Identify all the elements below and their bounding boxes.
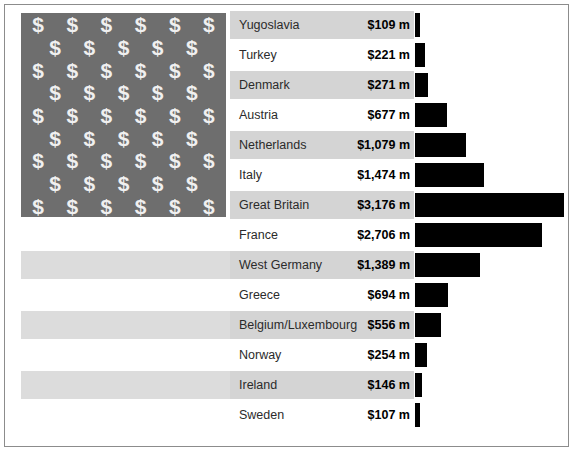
country-label: Italy <box>239 168 262 182</box>
value-bar <box>415 193 564 217</box>
country-label: Ireland <box>239 378 277 392</box>
country-label: Yugoslavia <box>239 18 299 32</box>
chart-row: Ireland$146 m <box>0 371 574 401</box>
value-bar <box>415 403 420 427</box>
chart-row: Yugoslavia$109 m <box>0 11 574 41</box>
country-label: Great Britain <box>239 198 309 212</box>
value-bar <box>415 133 466 157</box>
chart-row: Sweden$107 m <box>0 401 574 431</box>
chart-row: Italy$1,474 m <box>0 161 574 191</box>
value-label: $694 m <box>300 288 410 302</box>
country-label: Denmark <box>239 78 290 92</box>
value-label: $1,389 m <box>300 258 410 272</box>
chart-row: Turkey$221 m <box>0 41 574 71</box>
value-label: $146 m <box>300 378 410 392</box>
chart-row: Netherlands$1,079 m <box>0 131 574 161</box>
value-label: $556 m <box>300 318 410 332</box>
country-label: Sweden <box>239 408 284 422</box>
country-label: Turkey <box>239 48 277 62</box>
value-bar <box>415 43 425 67</box>
value-bar <box>415 373 422 397</box>
value-bar <box>415 253 480 277</box>
value-label: $221 m <box>300 48 410 62</box>
chart-row: Norway$254 m <box>0 341 574 371</box>
chart-row: Great Britain$3,176 m <box>0 191 574 221</box>
value-label: $2,706 m <box>300 228 410 242</box>
value-bar <box>415 13 420 37</box>
chart-row: Greece$694 m <box>0 281 574 311</box>
value-label: $1,474 m <box>300 168 410 182</box>
chart-row: West Germany$1,389 m <box>0 251 574 281</box>
value-label: $109 m <box>300 18 410 32</box>
chart-row: Denmark$271 m <box>0 71 574 101</box>
value-bar <box>415 163 484 187</box>
chart-row: France$2,706 m <box>0 221 574 251</box>
value-bar <box>415 343 427 367</box>
value-label: $254 m <box>300 348 410 362</box>
value-bar <box>415 313 441 337</box>
value-label: $107 m <box>300 408 410 422</box>
value-bar <box>415 223 542 247</box>
country-label: Norway <box>239 348 281 362</box>
value-bar <box>415 103 447 127</box>
value-label: $3,176 m <box>300 198 410 212</box>
country-label: Austria <box>239 108 278 122</box>
value-bar <box>415 73 428 97</box>
country-label: France <box>239 228 278 242</box>
value-label: $677 m <box>300 108 410 122</box>
country-label: Greece <box>239 288 280 302</box>
chart-row: Austria$677 m <box>0 101 574 131</box>
chart-row: Belgium/Luxembourg$556 m <box>0 311 574 341</box>
chart-figure: $$$$$$$$$$$$$$$$$$$$$$$$$$$$$$$$$$$$$$$$… <box>0 0 574 452</box>
value-label: $1,079 m <box>300 138 410 152</box>
value-bar <box>415 283 448 307</box>
value-label: $271 m <box>300 78 410 92</box>
country-label: Netherlands <box>239 138 306 152</box>
